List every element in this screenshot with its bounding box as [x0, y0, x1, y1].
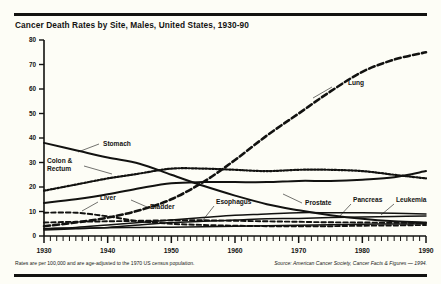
y-tick-label: 60 [29, 85, 37, 92]
y-tick-label: 40 [29, 134, 37, 141]
footnote-source: Source: American Cancer Society, Cancer … [274, 260, 427, 266]
plot-area: 0102030405060708019301940195019601970198… [0, 34, 441, 259]
x-tick-label: 1940 [100, 247, 115, 254]
page-title: Cancer Death Rates by Site, Males, Unite… [15, 20, 249, 30]
x-tick-label: 1990 [418, 247, 433, 254]
leader-line-liver [82, 202, 98, 211]
leader-line-colon-rectum-2 [84, 166, 112, 174]
series-label-pancreas: Pancreas [353, 196, 383, 203]
x-tick-label: 1970 [291, 247, 306, 254]
leader-line-pancreas [338, 204, 351, 218]
series-label-colon-rectum-1: Colon & [47, 157, 73, 164]
series-label-stomach: Stomach [103, 140, 131, 147]
x-tick-label: 1950 [164, 247, 179, 254]
y-tick-label: 50 [29, 110, 37, 117]
series-label-leukemia: Leukemia [396, 196, 427, 203]
series-label-liver: Liver [100, 194, 116, 201]
series-label-bladder: Bladder [150, 203, 175, 210]
series-label-colon-rectum-2: Rectum [47, 165, 71, 172]
series-label-lung: Lung [348, 79, 364, 87]
leader-line-prostate [283, 194, 302, 203]
series-label-prostate: Prostate [305, 199, 332, 206]
x-tick-label: 1930 [36, 247, 51, 254]
y-tick-label: 30 [29, 159, 37, 166]
leader-line-bladder [131, 200, 147, 207]
top-rule [14, 13, 427, 16]
y-tick-label: 80 [29, 36, 37, 43]
chart-page: Cancer Death Rates by Site, Males, Unite… [0, 0, 441, 284]
y-tick-label: 20 [29, 183, 37, 190]
y-tick-label: 70 [29, 61, 37, 68]
bottom-rule [14, 274, 427, 277]
line-chart: 0102030405060708019301940195019601970198… [0, 34, 441, 259]
y-tick-label: 0 [32, 232, 36, 239]
x-tick-label: 1980 [355, 247, 370, 254]
y-tick-label: 10 [29, 208, 37, 215]
series-label-esophagus: Esophagus [216, 198, 252, 206]
footnote-rates: Rates are per 100,000 and are age-adjust… [15, 260, 195, 266]
x-tick-label: 1960 [227, 247, 242, 254]
leader-line-stomach [78, 144, 99, 152]
